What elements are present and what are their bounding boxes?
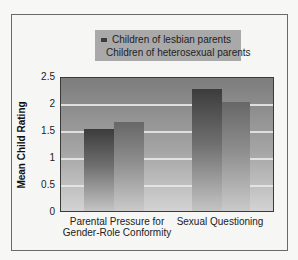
x-category-label: Parental Pressure for Gender-Role Confor…	[62, 216, 172, 238]
plot-area	[60, 77, 274, 212]
x-label-line: Gender-Role Conformity	[62, 227, 172, 238]
legend-label: Children of heterosexual parents	[106, 47, 251, 58]
x-label-line: Sexual Questioning	[172, 216, 268, 227]
y-tick: 2.5	[33, 71, 55, 82]
x-category-label: Sexual Questioning	[172, 216, 268, 227]
bar-heterosexual	[222, 102, 250, 211]
legend-label: Children of lesbian parents	[112, 34, 231, 45]
bar-lesbian	[84, 129, 114, 211]
bar-heterosexual	[114, 122, 144, 211]
legend-item-lesbian: Children of lesbian parents	[101, 33, 241, 46]
bar-lesbian	[192, 89, 222, 211]
y-tick: 0.5	[33, 179, 55, 190]
x-label-line: Parental Pressure for	[62, 216, 172, 227]
legend: Children of lesbian parents Children of …	[95, 30, 241, 61]
legend-swatch-icon	[101, 38, 107, 42]
y-tick: 1.5	[33, 125, 55, 136]
legend-item-heterosexual: Children of heterosexual parents	[101, 46, 241, 59]
y-tick: 2	[33, 98, 55, 109]
y-tick: 1	[33, 152, 55, 163]
y-tick: 0	[33, 206, 55, 217]
y-axis-label: Mean Child Rating	[16, 101, 27, 188]
